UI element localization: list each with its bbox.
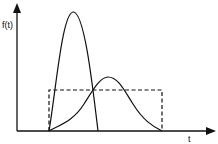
x-axis-arrow-icon bbox=[206, 127, 216, 135]
tall-narrow-pulse-curve bbox=[49, 12, 98, 131]
diagram-canvas: f(t) t bbox=[0, 0, 218, 144]
x-axis-label: t bbox=[188, 134, 191, 144]
rectangular-pulse-curve bbox=[49, 90, 162, 131]
wide-skewed-pulse-curve bbox=[49, 77, 162, 131]
y-axis-label: f(t) bbox=[2, 20, 13, 30]
y-axis-arrow-icon bbox=[13, 3, 21, 13]
